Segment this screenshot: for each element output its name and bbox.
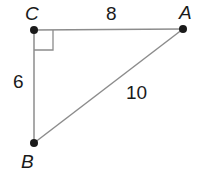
vertex-label-b: B bbox=[21, 151, 34, 172]
vertex-a-dot bbox=[179, 25, 187, 33]
side-label-cb: 6 bbox=[13, 71, 24, 92]
vertex-label-a: A bbox=[178, 2, 192, 23]
vertex-b-dot bbox=[30, 139, 38, 147]
right-angle-marker bbox=[34, 30, 53, 50]
side-label-ca: 8 bbox=[106, 3, 117, 24]
vertex-label-c: C bbox=[25, 3, 39, 24]
side-label-ab: 10 bbox=[126, 82, 147, 103]
side-ab-hypotenuse bbox=[34, 29, 183, 143]
vertex-c-dot bbox=[30, 26, 38, 34]
side-ca bbox=[34, 29, 183, 30]
right-triangle-diagram: C A B 8 6 10 bbox=[0, 0, 200, 174]
